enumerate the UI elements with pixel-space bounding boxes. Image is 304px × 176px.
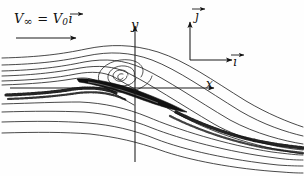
unit-vector-basis (190, 22, 232, 60)
shear-layer-upper (6, 88, 116, 95)
freestream-v-subscript: ∞ (24, 15, 33, 28)
freestream-v-symbol: V (14, 11, 24, 26)
unit-vector-i-label: ı (233, 56, 237, 68)
streamline-1 (2, 46, 303, 127)
vortex-core (118, 74, 123, 80)
streamline-10 (2, 132, 303, 173)
x-axis-label: x (206, 78, 213, 90)
freestream-velocity-label: V∞ = V0ı (14, 12, 73, 27)
streamline-group-upper-outer (2, 46, 303, 144)
y-axis-label: y (131, 18, 138, 31)
unit-vector-j-label: ȷ (195, 10, 199, 22)
freestream-unit-vector-i: ı (68, 11, 72, 26)
vector-overbar-arrows (70, 9, 244, 55)
flow-visualization-figure: V∞ = V0ı y x ȷ ı (0, 0, 304, 176)
freestream-equals: = (37, 11, 48, 26)
streamline-2 (2, 53, 303, 136)
freestream-v0-symbol: V (53, 11, 63, 26)
streamline-group-lower (2, 102, 303, 173)
